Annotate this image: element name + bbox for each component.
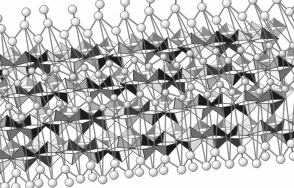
crystal-structure-canvas bbox=[0, 0, 294, 188]
crystal-structure-figure: Grayscale crystallographic projection of… bbox=[0, 0, 294, 188]
